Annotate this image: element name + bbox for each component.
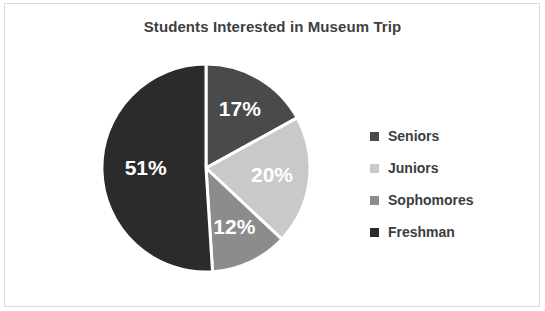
legend-label: Seniors [388,128,439,144]
legend-swatch-icon-seniors [370,132,379,141]
legend-item-juniors[interactable]: Juniors [370,152,530,184]
legend-label: Freshman [388,224,455,240]
legend-label: Juniors [388,160,439,176]
pie-value-label-sophomores: 12% [213,215,255,238]
chart-legend: SeniorsJuniorsSophomoresFreshman [370,120,530,248]
pie-value-label-seniors: 17% [219,97,261,120]
pie-svg: 17%20%12%51% [100,62,312,274]
legend-item-seniors[interactable]: Seniors [370,120,530,152]
legend-swatch-icon-juniors [370,164,379,173]
pie-value-label-juniors: 20% [251,163,293,186]
legend-item-sophomores[interactable]: Sophomores [370,184,530,216]
legend-swatch-icon-sophomores [370,196,379,205]
pie-chart-area: 17%20%12%51% [100,62,312,274]
pie-value-label-freshman: 51% [125,156,167,179]
legend-label: Sophomores [388,192,474,208]
pie-chart-card: Students Interested in Museum Trip 17%20… [0,0,545,311]
chart-title: Students Interested in Museum Trip [0,18,545,35]
legend-item-freshman[interactable]: Freshman [370,216,530,248]
legend-swatch-icon-freshman [370,228,379,237]
